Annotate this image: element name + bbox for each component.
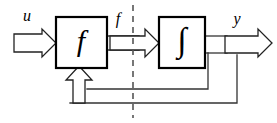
feedback-block-arrow [66,66,92,103]
block-diagram-figure: f ∫ u f y [0,0,277,123]
integrator-block[interactable]: ∫ [159,17,205,68]
signal-label-y: y [231,10,241,28]
output-block-arrow [225,29,272,57]
diagram-canvas: f ∫ u f y [0,0,277,123]
middle-block-arrow [110,29,159,57]
signal-label-f: f [116,10,123,28]
f-block[interactable]: f [56,17,107,68]
input-block-arrow [14,29,56,57]
signal-label-u: u [23,7,31,24]
